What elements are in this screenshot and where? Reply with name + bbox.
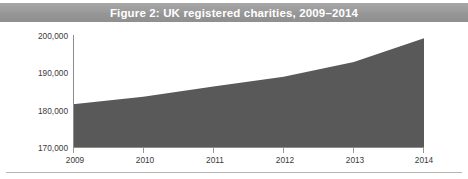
y-tick-label: 170,000 (38, 143, 68, 153)
x-tick-label: 2013 (346, 155, 365, 165)
x-tick-label: 2009 (66, 155, 85, 165)
area-chart: 200,000 190,000 180,000 170,000 2009 201… (0, 22, 468, 179)
y-axis-tick-labels: 200,000 190,000 180,000 170,000 (38, 31, 68, 153)
x-tick-label: 2014 (415, 155, 434, 165)
chart-canvas: 200,000 190,000 180,000 170,000 2009 201… (0, 22, 468, 179)
y-tick-label: 180,000 (38, 106, 68, 116)
x-tick-label: 2012 (276, 155, 295, 165)
x-axis-tick-marks (74, 148, 424, 153)
x-tick-label: 2011 (206, 155, 224, 165)
figure-title-banner: Figure 2: UK registered charities, 2009–… (0, 3, 468, 22)
x-axis-tick-labels: 2009 2010 2011 2012 2013 2014 (66, 155, 434, 165)
x-tick-label: 2010 (136, 155, 155, 165)
y-tick-label: 200,000 (38, 31, 68, 41)
y-tick-label: 190,000 (38, 68, 68, 78)
figure-title: Figure 2: UK registered charities, 2009–… (110, 7, 358, 19)
area-series-fill (73, 38, 424, 147)
